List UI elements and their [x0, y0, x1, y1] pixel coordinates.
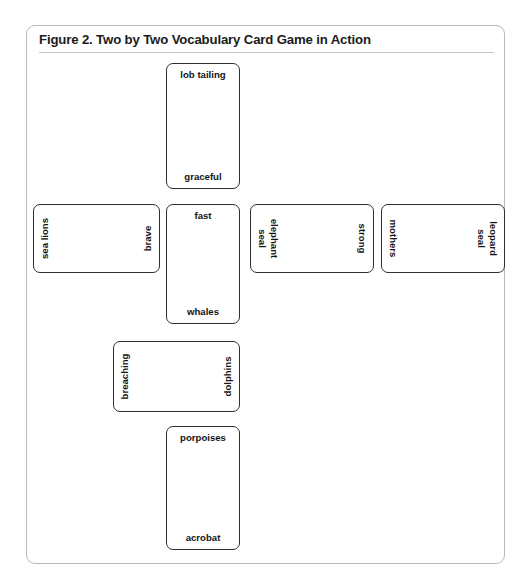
card-top-label: sea lions [39, 214, 51, 263]
vocabulary-card-breaching-dolphins[interactable]: breaching dolphins [113, 341, 240, 412]
card-top-label: fast [176, 210, 230, 222]
card-top-label: lob tailing [176, 69, 230, 81]
caption-divider [39, 52, 494, 53]
card-bottom-label: dolphins [222, 351, 234, 402]
card-bottom-label: whales [176, 306, 230, 318]
card-bottom-label: elephant seal [257, 214, 280, 263]
vocabulary-card-strong-elephant-seal[interactable]: strong elephant seal [250, 204, 374, 273]
card-bottom-label: acrobat [176, 532, 230, 544]
card-top-label: porpoises [176, 432, 230, 444]
vocabulary-card-leopard-seal-mothers[interactable]: leopard seal mothers [381, 204, 505, 273]
card-top-label: strong [357, 214, 369, 263]
figure-caption: Figure 2. Two by Two Vocabulary Card Gam… [39, 32, 494, 47]
card-face: lob tailing graceful [167, 64, 239, 188]
vocabulary-card-fast-whales[interactable]: fast whales [166, 204, 240, 324]
card-bottom-label: graceful [176, 171, 230, 183]
card-face: leopard seal mothers [382, 205, 504, 272]
card-face: fast whales [167, 205, 239, 323]
card-face: porpoises acrobat [167, 427, 239, 549]
card-face: breaching dolphins [114, 342, 239, 411]
card-bottom-label: mothers [388, 214, 400, 263]
vocabulary-card-sea-lions[interactable]: sea lions brave [33, 204, 160, 273]
card-top-label: breaching [119, 351, 131, 402]
vocabulary-card-porpoises-acrobat[interactable]: porpoises acrobat [166, 426, 240, 550]
card-bottom-label: brave [142, 214, 154, 263]
card-top-label: leopard seal [476, 214, 499, 263]
figure-frame: Figure 2. Two by Two Vocabulary Card Gam… [26, 25, 505, 564]
vocabulary-card-lob-tailing[interactable]: lob tailing graceful [166, 63, 240, 189]
card-face: sea lions brave [34, 205, 159, 272]
card-face: strong elephant seal [251, 205, 373, 272]
